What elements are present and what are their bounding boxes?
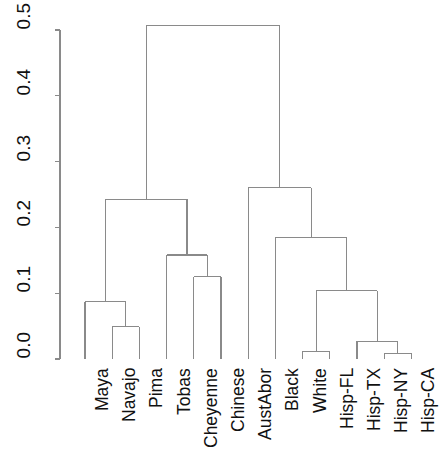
y-axis-tick-label: 0.2 — [13, 200, 35, 248]
y-axis-tick-label: 0.4 — [13, 69, 35, 117]
leaf-label-chinese: Chinese — [228, 368, 249, 432]
dendrogram-tree — [85, 25, 411, 359]
leaf-label-hisp-tx: Hisp-TX — [364, 368, 385, 431]
leaf-label-navajo: Navajo — [119, 368, 140, 422]
leaf-label-tobas: Tobas — [174, 368, 195, 415]
y-axis — [55, 30, 60, 359]
leaf-label-pima: Pima — [146, 368, 167, 408]
leaf-label-maya: Maya — [92, 368, 113, 411]
y-axis-tick-label: 0.0 — [13, 332, 35, 380]
leaf-label-hisp-ca: Hisp-CA — [418, 368, 439, 433]
leaf-label-hisp-ny: Hisp-NY — [391, 368, 412, 433]
y-axis-tick-label: 0.3 — [13, 135, 35, 183]
y-axis-tick-label: 0.5 — [13, 3, 35, 51]
leaf-label-cheyenne: Cheyenne — [201, 368, 222, 448]
y-axis-tick-label: 0.1 — [13, 266, 35, 314]
leaf-label-black: Black — [282, 368, 303, 411]
leaf-label-austabor: AustAbor — [255, 368, 276, 440]
leaf-label-hisp-fl: Hisp-FL — [337, 368, 358, 429]
leaf-label-white: White — [310, 368, 331, 413]
